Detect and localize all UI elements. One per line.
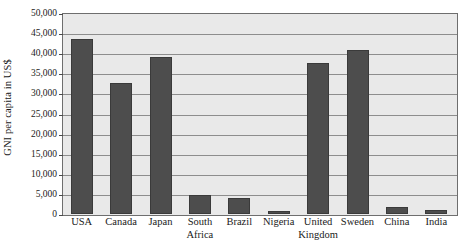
- y-axis-tick-label: 10,000: [31, 169, 57, 179]
- x-axis-tick-label: India: [410, 216, 463, 229]
- y-axis-tick-mark: [59, 155, 63, 156]
- gridline: [63, 115, 457, 116]
- x-axis-tick-label-line1: China: [384, 216, 409, 227]
- y-axis-tick-label: 50,000: [31, 8, 57, 18]
- y-axis-tick-label: 30,000: [31, 88, 57, 98]
- gridline: [63, 94, 457, 95]
- gridline: [63, 195, 457, 196]
- y-axis-tick-mark: [59, 34, 63, 35]
- gridline: [63, 135, 457, 136]
- y-axis-tick-mark: [59, 135, 63, 136]
- y-axis-tick-label: 25,000: [31, 109, 57, 119]
- y-axis-tick-label: 40,000: [31, 48, 57, 58]
- y-axis-tick-label: 15,000: [31, 149, 57, 159]
- bar-chart: GNI per capita in US$ 05,00010,00015,000…: [0, 0, 471, 251]
- y-axis-tick-label: 20,000: [31, 129, 57, 139]
- gridline: [63, 175, 457, 176]
- x-axis-tick-label-line1: Sweden: [341, 216, 374, 227]
- gridline: [63, 54, 457, 55]
- x-axis-tick-label-line1: Nigeria: [263, 216, 295, 227]
- y-axis-title-text: GNI per capita in US$: [2, 59, 13, 156]
- x-axis-tick-label-line1: United: [304, 216, 333, 227]
- y-axis-tick-label: 35,000: [31, 68, 57, 78]
- y-axis-tick-mark: [59, 175, 63, 176]
- y-axis-tick-mark: [59, 74, 63, 75]
- x-axis-tick-label-line2: Kingdom: [291, 229, 344, 242]
- y-axis-tick-mark: [59, 115, 63, 116]
- x-axis-tick-label-line1: South: [188, 216, 213, 227]
- gridline: [63, 34, 457, 35]
- x-axis-tick-label-line1: Brazil: [226, 216, 252, 227]
- gridline: [63, 74, 457, 75]
- plot-area: [62, 13, 458, 216]
- x-axis-tick-labels: USACanadaJapanSouthAfricaBrazilNigeriaUn…: [62, 216, 456, 251]
- x-axis-tick-label-line1: Canada: [105, 216, 137, 227]
- y-axis-tick-mark: [59, 94, 63, 95]
- x-axis-tick-label-line1: Japan: [149, 216, 173, 227]
- gridline: [63, 155, 457, 156]
- y-axis-title: GNI per capita in US$: [0, 0, 14, 214]
- x-axis-tick-label-line2: Africa: [173, 229, 226, 242]
- y-axis-tick-label: 5,000: [36, 189, 57, 199]
- y-axis-tick-mark: [59, 54, 63, 55]
- y-axis-tick-mark: [59, 195, 63, 196]
- x-axis-tick-label-line1: India: [426, 216, 448, 227]
- x-axis-tick-label-line1: USA: [71, 216, 92, 227]
- y-axis-tick-labels: 05,00010,00015,00020,00025,00030,00035,0…: [14, 0, 60, 220]
- y-axis-tick-mark: [59, 14, 63, 15]
- y-axis-tick-label: 45,000: [31, 28, 57, 38]
